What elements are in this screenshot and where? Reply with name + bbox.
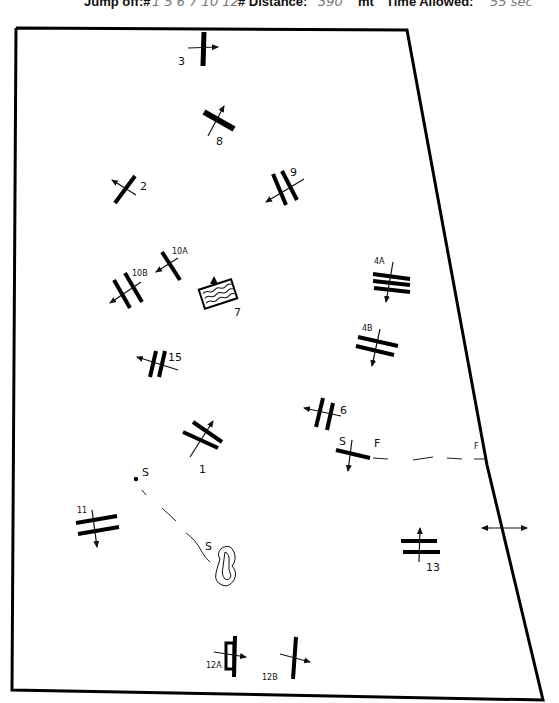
fence-12b[interactable]: 12B xyxy=(262,637,310,682)
fence-12a[interactable]: 12A xyxy=(206,636,246,677)
jumpoff-start[interactable]: S xyxy=(134,466,210,562)
fence-4b-label: 4B xyxy=(362,324,373,333)
fence-11-label: 11 xyxy=(77,506,87,515)
fence-10b[interactable]: 10B xyxy=(110,269,148,308)
fence-4b[interactable]: 4B xyxy=(356,324,398,366)
jumpoff-start-label: S xyxy=(142,466,149,479)
fence-15-label: 15 xyxy=(168,351,182,364)
start-label: S xyxy=(339,435,346,448)
fence-13[interactable]: 13 xyxy=(401,528,440,574)
fence-11[interactable]: 11 xyxy=(76,506,119,547)
finish-label-right: F xyxy=(474,442,479,451)
fence-9-label: 9 xyxy=(290,166,297,179)
fence-13-label: 13 xyxy=(426,561,440,574)
fence-2[interactable]: 2 xyxy=(112,176,147,203)
finish-label-left: F xyxy=(374,437,380,450)
fence-1[interactable]: 1 xyxy=(183,421,222,476)
fence-4a-label: 4A xyxy=(374,257,385,266)
fence-7-label: 7 xyxy=(234,306,241,319)
fence-6-label: 6 xyxy=(340,404,347,417)
course-map: 3 8 2 9 10A 10B xyxy=(0,0,559,703)
fence-15[interactable]: 15 xyxy=(137,351,182,377)
fence-6[interactable]: 6 xyxy=(304,398,347,430)
fence-2-label: 2 xyxy=(140,180,147,193)
fence-10a-label: 10A xyxy=(172,247,188,256)
fence-10a[interactable]: 10A xyxy=(156,247,188,280)
fence-4a[interactable]: 4A xyxy=(373,257,410,302)
fence-12b-label: 12B xyxy=(262,673,278,682)
start-finish[interactable]: S F F xyxy=(336,435,486,471)
fence-12a-label: 12A xyxy=(206,661,222,670)
fence-3-label: 3 xyxy=(178,55,185,68)
fence-1-label: 1 xyxy=(199,463,206,476)
arena-border xyxy=(12,28,543,700)
jumpoff-finish[interactable]: S xyxy=(205,540,236,586)
fence-9[interactable]: 9 xyxy=(266,166,304,205)
fence-10b-label: 10B xyxy=(132,269,148,278)
fence-8-label: 8 xyxy=(216,135,223,148)
jumpoff-finish-label: S xyxy=(205,540,212,553)
fence-7-water[interactable]: 7 xyxy=(199,276,241,319)
fence-8[interactable]: 8 xyxy=(204,106,234,148)
fence-3[interactable]: 3 xyxy=(178,32,218,68)
